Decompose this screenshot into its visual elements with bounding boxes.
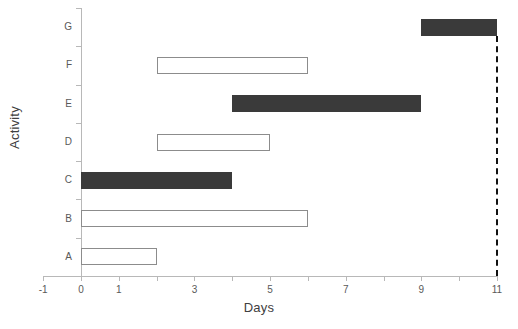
- gantt-bar-b: [81, 210, 308, 227]
- x-axis-tick-label-11: 11: [482, 284, 512, 295]
- gantt-bar-g: [421, 19, 497, 36]
- x-axis-tick-label-9: 9: [406, 284, 436, 295]
- gantt-bar-e: [232, 95, 421, 112]
- y-axis-tick-label-e: E: [48, 98, 72, 109]
- x-axis-tick: [157, 276, 158, 281]
- y-axis-tick-label-c: C: [48, 174, 72, 185]
- y-axis-title: Activity: [7, 78, 22, 178]
- x-axis-tick: [459, 276, 460, 281]
- x-axis-tick: [270, 276, 271, 281]
- y-axis-tick-label-a: A: [48, 251, 72, 262]
- x-axis-tick-label-1: 1: [104, 284, 134, 295]
- gantt-bar-c: [81, 172, 232, 189]
- y-axis-tick-label-g: G: [48, 21, 72, 32]
- plot-area: [81, 8, 497, 276]
- x-axis-tick: [232, 276, 233, 281]
- x-axis-tick-label-3: 3: [179, 284, 209, 295]
- x-axis-tick: [384, 276, 385, 281]
- x-axis-title: Days: [0, 300, 518, 315]
- x-axis-tick: [43, 276, 44, 281]
- completion-line: [496, 36, 498, 276]
- x-axis-tick-label-0: 0: [66, 284, 96, 295]
- x-axis-tick: [421, 276, 422, 281]
- x-axis-tick-label-5: 5: [255, 284, 285, 295]
- y-axis-tick-label-f: F: [48, 59, 72, 70]
- x-axis-tick: [497, 276, 498, 281]
- gantt-bar-d: [157, 134, 270, 151]
- x-axis-tick: [194, 276, 195, 281]
- y-axis-tick-label-d: D: [48, 136, 72, 147]
- x-axis-tick-label-neg1: -1: [28, 284, 58, 295]
- y-axis-tick-label-b: B: [48, 213, 72, 224]
- x-axis-tick: [346, 276, 347, 281]
- gantt-bar-f: [157, 57, 308, 74]
- gantt-chart: Activity Days GFEDCBA -101357911: [0, 0, 518, 329]
- x-axis-tick: [81, 276, 82, 281]
- x-axis-tick: [119, 276, 120, 281]
- gantt-bar-a: [81, 248, 157, 265]
- x-axis-tick: [308, 276, 309, 281]
- x-axis-tick-label-7: 7: [331, 284, 361, 295]
